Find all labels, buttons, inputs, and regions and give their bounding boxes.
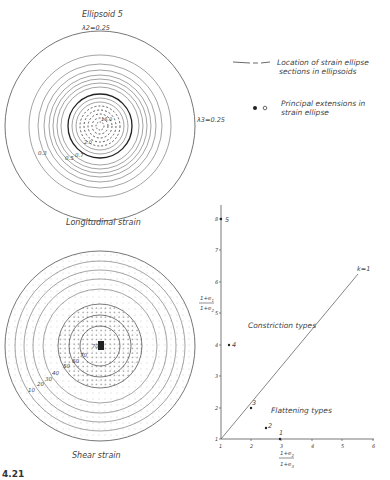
shear-strain-diagram bbox=[5, 251, 195, 441]
point-label-1: 1 bbox=[279, 429, 283, 437]
x-tick-1: 1 bbox=[219, 443, 222, 449]
x-axis-label: 1+e2 1+e3 bbox=[279, 450, 295, 469]
flattening-types-label: Flattening types bbox=[271, 406, 332, 415]
contour-label-0.7: 0.7 bbox=[75, 152, 84, 158]
lambda3-label: λ3=0.25 bbox=[196, 116, 225, 124]
x-tick-2: 2 bbox=[250, 443, 253, 449]
k1-line-label: k=1 bbox=[357, 265, 370, 273]
shear-caption: Shear strain bbox=[72, 451, 121, 460]
data-point-3 bbox=[250, 407, 252, 409]
y-tick-3: 3 bbox=[215, 373, 218, 379]
data-point-4 bbox=[228, 344, 230, 346]
shear-label-20: 20 bbox=[37, 381, 44, 387]
legend-line-label-2: sections in ellipsoids bbox=[279, 67, 356, 76]
shear-label-70-center: 70 bbox=[92, 343, 98, 349]
svg-text:1+e2: 1+e2 bbox=[280, 450, 295, 458]
data-point-2 bbox=[265, 427, 267, 429]
x-tick-6: 6 bbox=[372, 443, 375, 449]
contour-label-0.5: 0.5 bbox=[65, 155, 74, 161]
data-point-5 bbox=[220, 218, 222, 220]
point-label-3: 3 bbox=[252, 399, 256, 407]
constriction-types-label: Constriction types bbox=[248, 321, 316, 330]
shear-label-30: 30 bbox=[45, 376, 52, 382]
y-axis-label: 1+e1 1+e2 bbox=[199, 295, 215, 313]
y-tick-8: 8 bbox=[215, 216, 218, 222]
point-label-2: 2 bbox=[268, 422, 272, 430]
y-tick-7: 7 bbox=[215, 247, 219, 253]
lambda2-label: λ2=0.25 bbox=[81, 24, 110, 32]
legend-line-label-1: Location of strain ellipse bbox=[277, 58, 369, 67]
x-tick-5: 5 bbox=[341, 443, 344, 449]
ellipsoid-title: Ellipsoid 5 bbox=[82, 10, 123, 19]
scatter-chart: 1 2 3 4 5 6 7 8 1 2 3 4 5 6 1+e1 1+e2 bbox=[199, 205, 375, 469]
contour-label-16.0: 16.0 bbox=[101, 116, 112, 122]
longitudinal-caption: Longitudinal strain bbox=[66, 218, 141, 227]
filled-dot-icon bbox=[253, 106, 257, 110]
svg-text:1+e3: 1+e3 bbox=[280, 461, 295, 469]
point-label-5: 5 bbox=[225, 216, 229, 224]
svg-text:1+e2: 1+e2 bbox=[200, 305, 215, 313]
x-tick-4: 4 bbox=[311, 443, 314, 449]
shear-label-50: 50 bbox=[63, 363, 70, 369]
shear-label-70: 70 bbox=[80, 352, 87, 358]
x-tick-3: 3 bbox=[280, 443, 283, 449]
figure: Ellipsoid 5 λ2=0.25 λ3=0.25 0.3 0.5 0.7 … bbox=[0, 0, 390, 480]
shear-label-10: 10 bbox=[28, 387, 35, 393]
data-point-1 bbox=[279, 438, 281, 440]
contour-label-2.0: 2.0 bbox=[84, 139, 92, 145]
longitudinal-strain-diagram bbox=[5, 31, 195, 221]
figure-number: 4.21 bbox=[2, 469, 24, 479]
y-tick-4: 4 bbox=[215, 342, 218, 348]
contour-label-0.3: 0.3 bbox=[38, 150, 47, 156]
legend-dot-label-1: Principal extensions in bbox=[281, 99, 366, 108]
legend-dot-label-2: strain ellipse bbox=[281, 108, 329, 117]
open-dot-icon bbox=[263, 106, 267, 110]
shear-label-40: 40 bbox=[52, 370, 59, 376]
svg-text:1+e1: 1+e1 bbox=[200, 295, 214, 303]
y-tick-5: 5 bbox=[215, 310, 218, 316]
y-tick-6: 6 bbox=[215, 279, 218, 285]
shear-label-60: 60 bbox=[72, 358, 79, 364]
point-label-4: 4 bbox=[232, 341, 236, 349]
y-tick-1: 1 bbox=[215, 436, 218, 442]
y-tick-2: 2 bbox=[215, 405, 218, 411]
legend: Location of strain ellipse sections in e… bbox=[233, 58, 369, 117]
dash-dot-line-icon bbox=[233, 62, 270, 63]
